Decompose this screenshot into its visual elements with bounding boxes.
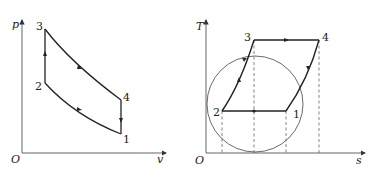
- ts-point-4: 4: [322, 31, 329, 44]
- pv-origin-label: O: [11, 153, 20, 166]
- ts-diagram: T s O 3 4 2 1: [195, 20, 365, 167]
- ts-x-label: s: [356, 154, 362, 167]
- ts-arrow-3-4: [284, 38, 289, 42]
- ts-y-label: T: [196, 20, 205, 33]
- pv-x-label: v: [157, 153, 164, 166]
- pv-point-4: 4: [123, 91, 130, 104]
- ts-process-2-3: [222, 40, 254, 111]
- pv-point-2: 2: [35, 80, 42, 93]
- ts-marker-1-2: [252, 109, 255, 112]
- ts-origin-label: O: [195, 154, 204, 167]
- pv-arrow-4-1: [119, 118, 123, 123]
- pv-diagram: p v O 3 2 4 1: [11, 18, 166, 166]
- pv-arrow-2-3: [43, 51, 47, 56]
- diagram-canvas: p v O 3 2 4 1 T s O: [0, 0, 374, 172]
- pv-arrow-1-2: [77, 107, 82, 111]
- ts-dashed-projections: [222, 40, 319, 153]
- ts-reference-circle: [207, 56, 303, 152]
- pv-y-label: p: [12, 18, 19, 31]
- pv-point-1: 1: [123, 133, 130, 146]
- ts-point-2: 2: [213, 106, 220, 119]
- ts-point-1: 1: [293, 108, 300, 121]
- pv-point-3: 3: [36, 20, 43, 33]
- ts-point-3: 3: [244, 31, 251, 44]
- pv-process-3-4: [45, 29, 121, 100]
